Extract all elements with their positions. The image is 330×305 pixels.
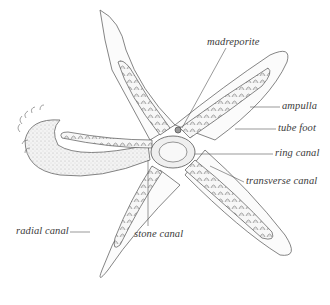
label-tube-foot: tube foot (278, 122, 316, 133)
label-ampulla: ampulla (282, 100, 317, 111)
label-stone-canal: stone canal (134, 228, 183, 239)
groove-left (61, 132, 152, 148)
label-transverse-canal: transverse canal (246, 175, 317, 186)
label-radial-canal: radial canal (16, 225, 69, 236)
label-madreporite: madreporite (207, 36, 260, 47)
starfish-diagram: madreporite ampulla tube foot ring canal… (0, 0, 330, 305)
label-ring-canal: ring canal (275, 147, 319, 158)
